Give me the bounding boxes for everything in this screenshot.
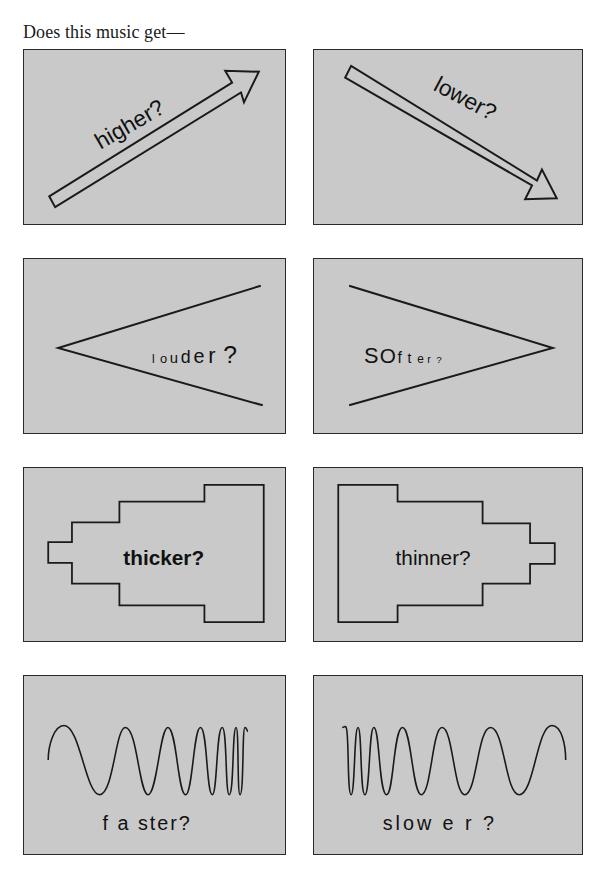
label-faster: f a ster? (103, 812, 192, 834)
label-softer-o: O (380, 344, 396, 367)
panel-softer: S O f t e r ? (313, 258, 583, 434)
label-softer-t: t (407, 350, 411, 366)
widening-staircase-icon: thicker? (24, 468, 285, 641)
label-louder-l: l (152, 352, 155, 366)
decrescendo-wedge-icon: S O f t e r ? (314, 259, 582, 433)
label-lower: lower? (430, 71, 501, 125)
decelerating-wave-icon: slow e r ? (314, 676, 582, 854)
narrowing-staircase-icon: thinner? (314, 468, 582, 641)
label-thinner: thinner? (396, 546, 471, 569)
label-louder-e: e (194, 345, 205, 367)
label-slower: slow e r ? (383, 812, 497, 834)
label-thicker: thicker? (123, 546, 204, 569)
panel-faster: f a ster? (23, 675, 286, 855)
label-softer-f: f (398, 349, 403, 366)
crescendo-wedge-icon: l o u d e r ? (24, 259, 285, 433)
label-softer-q: ? (436, 354, 442, 365)
label-louder-q: ? (223, 341, 237, 368)
label-louder-u: u (170, 350, 178, 366)
label-louder-o: o (160, 351, 167, 366)
label-softer-s: S (364, 343, 379, 368)
panel-louder: l o u d e r ? (23, 258, 286, 434)
label-softer-e: e (417, 352, 424, 366)
label-softer-r: r (427, 353, 431, 365)
label-louder: l o u d e r ? (152, 341, 237, 368)
label-softer: S O f t e r ? (364, 343, 442, 368)
arrow-down-right-icon: lower? (314, 50, 582, 224)
label-louder-d: d (181, 347, 191, 367)
accelerating-wave-icon: f a ster? (24, 676, 285, 854)
panel-lower: lower? (313, 49, 583, 225)
panel-higher: higher? (23, 49, 286, 225)
label-louder-r: r (208, 343, 215, 368)
page-heading: Does this music get— (23, 22, 185, 43)
panel-thinner: thinner? (313, 467, 583, 642)
panel-thicker: thicker? (23, 467, 286, 642)
panel-slower: slow e r ? (313, 675, 583, 855)
arrow-up-right-icon: higher? (24, 50, 285, 224)
